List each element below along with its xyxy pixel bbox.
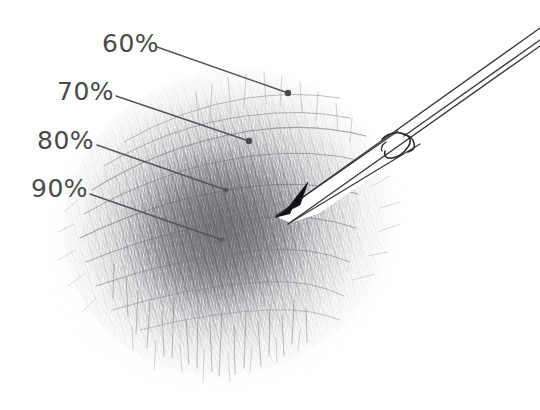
figure-canvas: 60% 70% 80% 90% [0, 0, 540, 410]
leader-dot-90 [220, 238, 225, 243]
leader-dot-60 [285, 90, 291, 96]
leader-dot-80 [223, 187, 228, 192]
pencil-density-illustration [0, 0, 540, 410]
density-label-70: 70% [57, 79, 114, 104]
density-label-80: 80% [37, 128, 94, 153]
leader-dot-70 [246, 138, 252, 144]
density-label-60: 60% [102, 31, 159, 56]
density-label-90: 90% [31, 176, 88, 201]
